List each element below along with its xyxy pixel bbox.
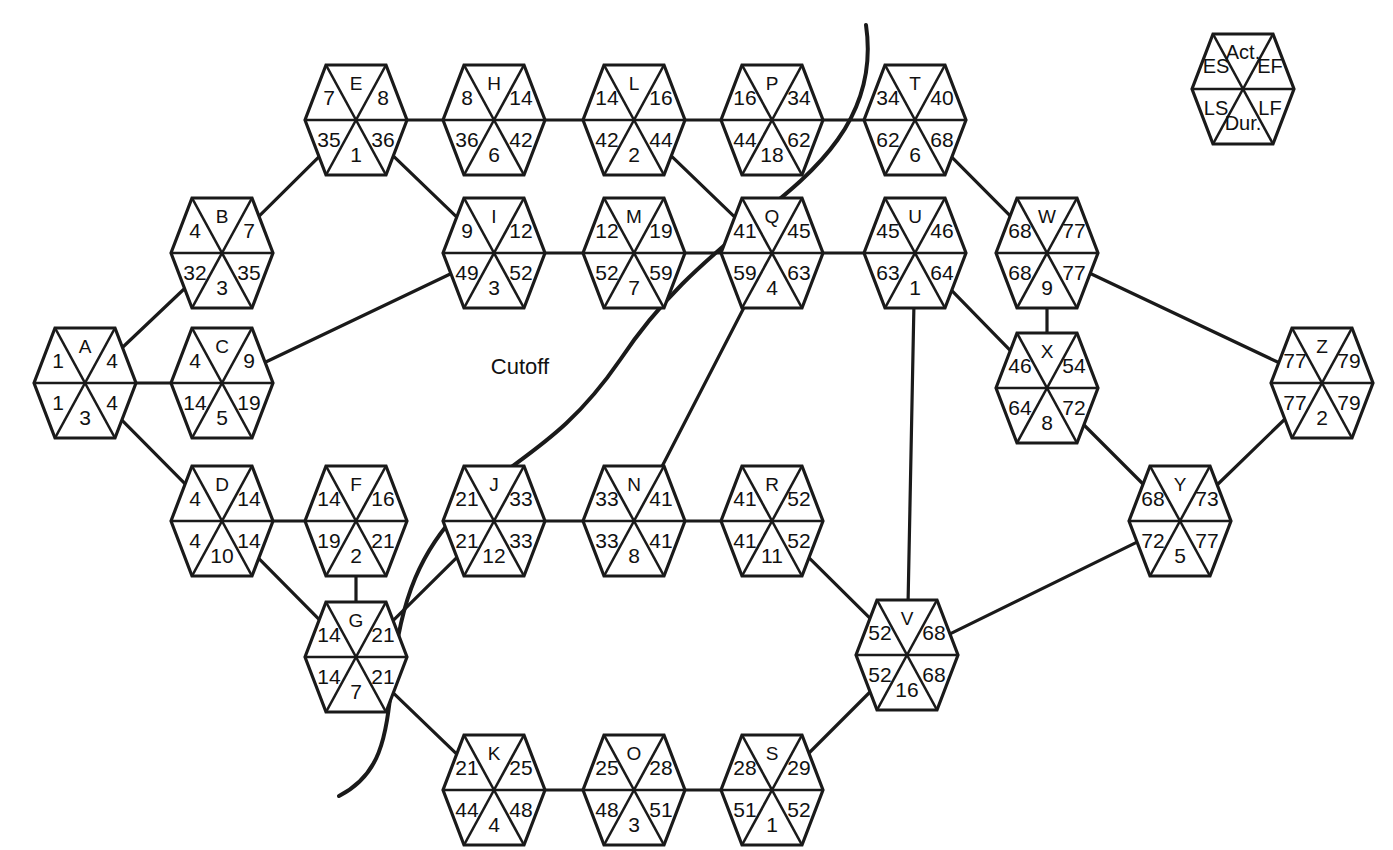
node-B-es: 4 [189,219,201,242]
edge-A-to-D [121,420,185,485]
edge-S-to-V [809,692,871,754]
node-N-lf: 41 [649,529,672,552]
node-Z[interactable]: Z777977792 [1271,328,1373,438]
node-Z-ef: 79 [1337,349,1360,372]
node-Y-ls: 72 [1141,529,1164,552]
node-P-lf: 62 [787,128,810,151]
node-A[interactable]: A14143 [34,328,136,438]
node-V[interactable]: V5268526816 [856,600,958,710]
node-Q-ef: 45 [787,219,810,242]
node-E-act: E [350,73,363,94]
node-Q-lf: 63 [787,261,810,284]
node-Q[interactable]: Q414559634 [721,198,823,308]
node-O-ls: 48 [595,798,618,821]
node-S-es: 28 [733,756,756,779]
legend-act: Act. [1226,41,1260,63]
node-F[interactable]: F141619212 [305,466,407,576]
node-Y-ef: 73 [1195,487,1218,510]
node-H-ef: 14 [509,86,533,109]
node-G-dur: 7 [350,680,362,703]
node-R[interactable]: R4152415211 [721,466,823,576]
node-U-ef: 46 [930,219,953,242]
node-T-ef: 40 [930,86,953,109]
edge-T-to-W [951,157,1010,217]
node-J-es: 21 [455,487,478,510]
node-O[interactable]: O252848513 [583,735,685,845]
node-T-dur: 6 [909,143,921,166]
node-R-lf: 52 [787,529,810,552]
node-Z-act: Z [1316,336,1328,357]
node-A-dur: 3 [79,406,91,429]
legend-lf: LF [1258,97,1281,119]
node-J-ef: 33 [509,487,532,510]
node-I-dur: 3 [488,276,500,299]
node-B[interactable]: B4732353 [171,198,273,308]
node-P[interactable]: P1634446218 [721,65,823,175]
node-K[interactable]: K212544484 [443,735,545,845]
node-R-act: R [765,474,779,495]
node-F-ef: 16 [371,487,394,510]
node-K-dur: 4 [488,813,500,836]
node-A-ls: 1 [52,391,64,414]
node-V-lf: 68 [922,663,945,686]
edge-A-to-B [122,289,184,348]
node-H-dur: 6 [488,143,500,166]
node-W-es: 68 [1008,219,1031,242]
node-M-lf: 59 [649,261,672,284]
node-Y-dur: 5 [1174,544,1186,567]
node-X[interactable]: X465464728 [996,333,1098,443]
node-V-dur: 16 [895,678,918,701]
node-A-lf: 4 [106,391,118,414]
node-E-lf: 36 [371,128,394,151]
node-U-ls: 63 [876,261,899,284]
node-M-dur: 7 [628,276,640,299]
node-H-ls: 36 [455,128,478,151]
node-E[interactable]: E7835361 [305,65,407,175]
node-F-es: 14 [317,487,341,510]
node-B-ef: 7 [243,219,255,242]
node-E-ls: 35 [317,128,340,151]
node-J[interactable]: J2133213312 [443,466,545,576]
node-C-ls: 14 [183,391,207,414]
node-X-act: X [1041,341,1054,362]
node-F-act: F [350,474,362,495]
node-O-lf: 51 [649,798,672,821]
node-L[interactable]: L141642442 [583,65,685,175]
node-X-ef: 54 [1062,354,1086,377]
edge-L-to-Q [671,156,735,217]
node-T[interactable]: T344062686 [864,65,966,175]
node-X-dur: 8 [1041,411,1053,434]
node-I-es: 9 [461,219,473,242]
node-K-act: K [488,743,501,764]
node-N[interactable]: N334133418 [583,466,685,576]
network-diagram-canvas: Cutoff A14143B4732353C4914195D41441410E7… [0,0,1393,850]
node-T-ls: 62 [876,128,899,151]
node-Y[interactable]: Y687372775 [1129,466,1231,576]
node-P-act: P [766,73,779,94]
node-J-dur: 12 [482,544,505,567]
network-diagram-svg: Cutoff A14143B4732353C4914195D41441410E7… [0,0,1393,850]
node-M[interactable]: M121952597 [583,198,685,308]
node-Z-lf: 79 [1337,391,1360,414]
node-H[interactable]: H81436426 [443,65,545,175]
node-U[interactable]: U454663641 [864,198,966,308]
node-M-ls: 52 [595,261,618,284]
node-H-lf: 42 [509,128,532,151]
node-D[interactable]: D41441410 [171,466,273,576]
node-G[interactable]: G142114217 [305,602,407,712]
node-T-act: T [909,73,921,94]
node-I[interactable]: I91249523 [443,198,545,308]
node-N-dur: 8 [628,544,640,567]
legend-hexagon[interactable]: Act.ESEFLSLFDur. [1192,34,1294,144]
edges-layer [121,120,1285,790]
node-V-act: V [901,608,914,629]
node-J-lf: 33 [509,529,532,552]
node-C[interactable]: C4914195 [171,328,273,438]
node-L-ls: 42 [595,128,618,151]
node-G-act: G [349,610,364,631]
node-W[interactable]: W687768779 [996,198,1098,308]
node-S[interactable]: S282951521 [721,735,823,845]
node-S-act: S [766,743,779,764]
node-S-dur: 1 [766,813,778,836]
node-P-dur: 18 [760,143,783,166]
